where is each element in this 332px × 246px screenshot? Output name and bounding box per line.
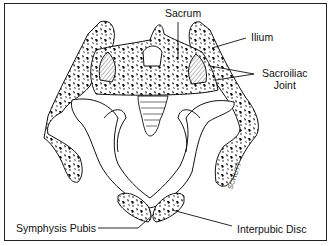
label-sacroiliac-line1: Sacroiliac <box>262 67 308 79</box>
label-symphysis-pubis: Symphysis Pubis <box>16 222 96 234</box>
label-ilium: Ilium <box>251 31 273 43</box>
label-sacrum: Sacrum <box>165 7 201 19</box>
label-interpubic-disc: Interpubic Disc <box>237 223 306 235</box>
coccyx <box>138 96 168 136</box>
interpubic-leader <box>172 210 232 226</box>
label-sacroiliac-joint: Sacroiliac Joint <box>262 67 308 91</box>
pelvis-illustration: SCHUTT <box>0 0 332 246</box>
label-sacroiliac-line2: Joint <box>262 79 308 91</box>
ilium-leader <box>212 38 246 48</box>
